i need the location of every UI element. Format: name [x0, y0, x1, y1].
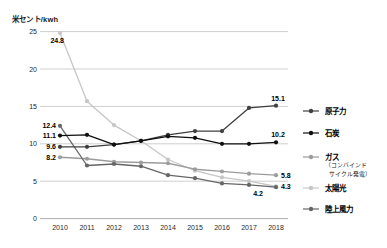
x-axis-labels: 201020112012201320142015201620172018	[52, 224, 284, 231]
legend-label-nuclear: 原子力	[325, 106, 346, 116]
legend-marker-dot-coal	[309, 131, 313, 135]
legend-marker-dot-gas	[309, 155, 313, 159]
data-point-solar-2010	[58, 31, 62, 35]
legend: 原子力石炭ガス（コンバインドサイクル発電）太陽光陸上風力	[303, 106, 371, 214]
y-tick-label: 25	[29, 28, 37, 35]
chart-panel: 米セント/kwh 0510152025201020112012201320142…	[0, 0, 387, 248]
data-point-gas-2013	[139, 160, 143, 164]
data-point-solar-2017	[247, 179, 251, 183]
data-point-nuclear-2018	[274, 104, 278, 108]
data-point-wind-2015	[193, 176, 197, 180]
legend-label-gas: ガス	[325, 152, 339, 162]
y-tick-label: 5	[33, 178, 37, 185]
x-tick-label: 2014	[160, 224, 176, 231]
legend-sublabel-gas-0: （コンバインド	[325, 162, 367, 168]
data-point-solar-2016	[220, 175, 224, 179]
x-tick-label: 2013	[133, 224, 149, 231]
value-label-end-solar: 4.3	[281, 183, 291, 190]
series-line-nuclear	[60, 106, 276, 147]
data-point-coal-2016	[220, 142, 224, 146]
x-tick-label: 2018	[268, 224, 284, 231]
cost-line-chart: 0510152025201020112012201320142015201620…	[0, 0, 387, 248]
data-point-wind-2011	[85, 163, 89, 167]
data-point-wind-2014	[166, 173, 170, 177]
legend-item-solar: 太陽光	[303, 183, 347, 193]
value-label-start-coal: 11.1	[43, 132, 56, 139]
data-point-wind-2013	[139, 164, 143, 168]
legend-label-coal: 石炭	[324, 128, 340, 138]
series-wind: 12.44.2	[42, 122, 278, 197]
legend-item-gas: ガス（コンバインドサイクル発電）	[303, 152, 371, 178]
data-point-nuclear-2015	[193, 129, 197, 133]
data-point-coal-2015	[193, 136, 197, 140]
data-point-nuclear-2010	[58, 145, 62, 149]
gridlines	[40, 32, 288, 219]
data-point-coal-2010	[58, 133, 62, 137]
data-point-gas-2016	[220, 169, 224, 173]
legend-item-nuclear: 原子力	[303, 106, 346, 116]
value-label-end-wind: 4.2	[253, 190, 263, 197]
data-point-solar-2012	[112, 123, 116, 127]
data-point-nuclear-2017	[247, 106, 251, 110]
data-point-wind-2018	[274, 185, 278, 189]
data-point-nuclear-2011	[85, 145, 89, 149]
data-point-gas-2014	[166, 161, 170, 165]
data-point-gas-2017	[247, 172, 251, 176]
data-point-wind-2016	[220, 181, 224, 185]
value-label-start-solar: 24.8	[50, 37, 64, 44]
value-label-start-wind: 12.4	[42, 122, 56, 129]
legend-marker-dot-wind	[309, 207, 313, 211]
value-label-start-nuclear: 9.6	[46, 143, 56, 150]
value-label-end-gas: 5.8	[281, 172, 291, 179]
x-tick-label: 2012	[106, 224, 122, 231]
y-tick-label: 15	[29, 103, 37, 110]
data-point-coal-2017	[247, 142, 251, 146]
data-point-coal-2013	[139, 139, 143, 143]
legend-marker-dot-solar	[309, 186, 313, 190]
y-axis-labels: 0510152025	[29, 28, 37, 222]
data-point-wind-2017	[247, 183, 251, 187]
data-point-coal-2018	[274, 140, 278, 144]
legend-sublabel-gas-1: サイクル発電）	[329, 170, 371, 178]
data-point-wind-2010	[58, 124, 62, 128]
data-point-solar-2014	[166, 157, 170, 161]
value-label-start-gas: 8.2	[46, 154, 56, 161]
data-point-coal-2011	[85, 133, 89, 137]
legend-item-wind: 陸上風力	[303, 204, 353, 214]
data-point-coal-2012	[112, 142, 116, 146]
data-point-gas-2011	[85, 157, 89, 161]
series-coal: 11.110.2	[43, 131, 285, 146]
x-tick-label: 2010	[52, 224, 68, 231]
data-point-nuclear-2016	[220, 129, 224, 133]
data-point-gas-2010	[58, 155, 62, 159]
data-point-gas-2015	[193, 167, 197, 171]
value-label-end-nuclear: 15.1	[271, 95, 285, 102]
value-label-end-coal: 10.2	[271, 131, 285, 138]
x-tick-label: 2015	[187, 224, 203, 231]
legend-label-solar: 太陽光	[325, 183, 347, 193]
data-point-solar-2011	[85, 99, 89, 103]
y-tick-label: 20	[29, 66, 37, 73]
legend-marker-dot-nuclear	[309, 109, 313, 113]
x-tick-label: 2011	[79, 224, 94, 231]
x-tick-label: 2016	[214, 224, 230, 231]
legend-label-wind: 陸上風力	[325, 204, 353, 214]
data-point-coal-2014	[166, 134, 170, 138]
legend-item-coal: 石炭	[303, 128, 340, 138]
x-tick-label: 2017	[241, 224, 257, 231]
y-tick-label: 10	[29, 140, 37, 147]
data-point-gas-2018	[274, 173, 278, 177]
y-tick-label: 0	[33, 215, 37, 222]
data-point-wind-2012	[112, 162, 116, 166]
